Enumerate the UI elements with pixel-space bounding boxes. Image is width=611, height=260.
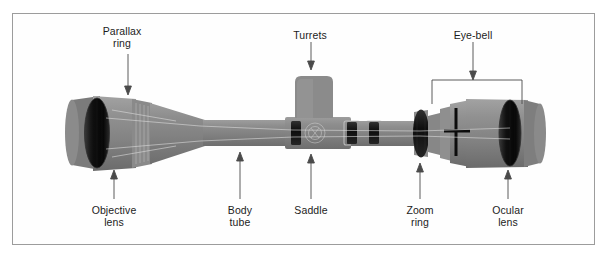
label-zoom-ring: Zoom ring xyxy=(386,205,454,228)
label-turrets: Turrets xyxy=(276,30,344,42)
label-saddle: Saddle xyxy=(277,205,345,217)
figure-page: Parallax ring Turrets Eye-bell Objective… xyxy=(0,0,611,260)
label-body-tube: Body tube xyxy=(206,205,274,228)
label-parallax-ring: Parallax ring xyxy=(88,26,156,49)
label-eye-bell: Eye-bell xyxy=(439,30,507,42)
label-ocular-lens: Ocular lens xyxy=(474,205,542,228)
label-objective-lens: Objective lens xyxy=(78,205,150,228)
